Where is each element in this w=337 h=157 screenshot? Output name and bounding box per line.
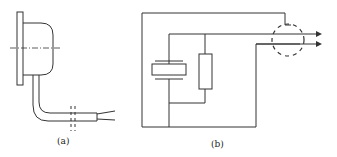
mounting-flange [17, 12, 23, 85]
wire-1 [97, 111, 115, 114]
resistor [199, 54, 212, 89]
cable-inner-edge [39, 75, 97, 113]
panel-b: (b) [142, 13, 322, 149]
panel-a: (a) [10, 12, 115, 146]
shield-loop [142, 13, 300, 127]
crystal-element [152, 64, 186, 75]
wire-2 [97, 119, 115, 120]
resistor-bottom-lead [169, 89, 205, 103]
arrow-top-icon [316, 31, 322, 37]
shield-circle [272, 24, 304, 56]
diagram-canvas: (a) (b) [0, 0, 337, 157]
cable-outer-edge [33, 75, 97, 121]
caption-b: (b) [211, 139, 224, 149]
arrow-bottom-icon [316, 41, 322, 47]
caption-a: (a) [57, 136, 69, 146]
sensor-dome-body [23, 23, 53, 75]
signal-line-top [169, 34, 316, 64]
